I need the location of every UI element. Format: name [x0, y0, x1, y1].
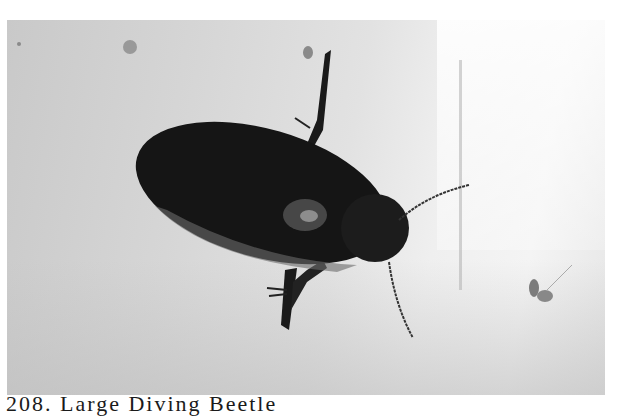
figure-caption: 208. Large Diving Beetle: [6, 393, 277, 415]
beetle-photo: [7, 20, 605, 395]
beetle-icon: [7, 20, 605, 395]
